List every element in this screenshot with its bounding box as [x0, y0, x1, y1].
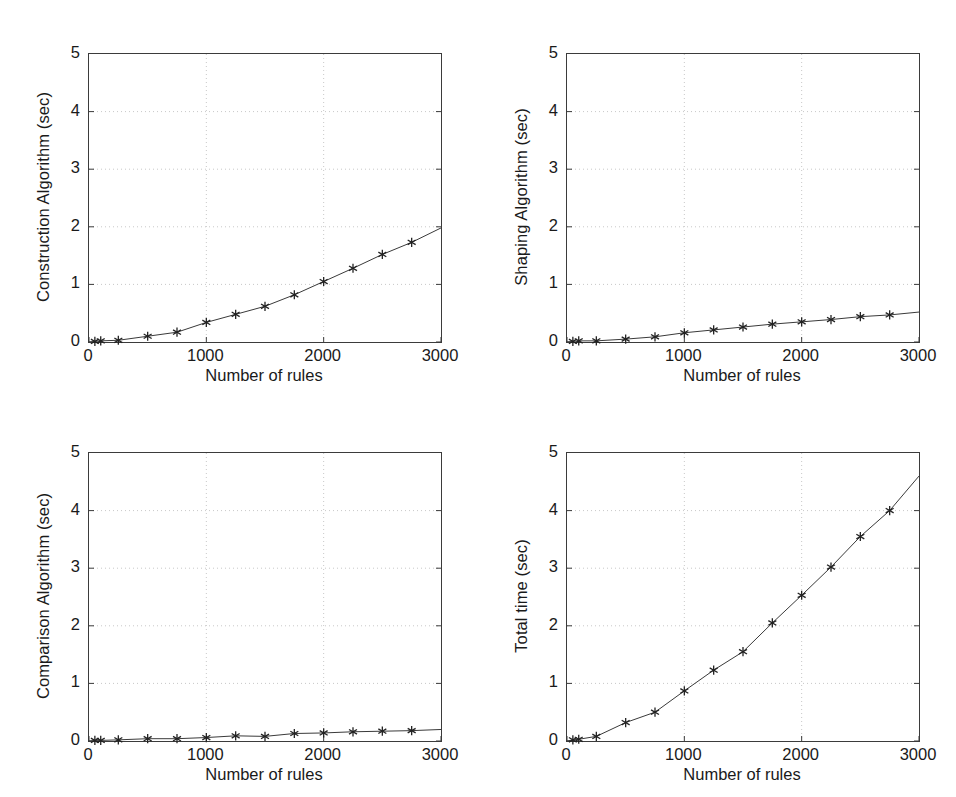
data-point-marker — [408, 238, 416, 247]
panel-comparison-algorithm: Comparison Algorithm (sec) 012345 010002… — [0, 399, 478, 797]
x-tick-label: 2000 — [304, 744, 341, 764]
panel-total-time: Total time (sec) 012345 0100020003000 Nu… — [478, 399, 956, 797]
y-axis-ticks: 012345 — [526, 0, 558, 398]
x-tick-label: 2000 — [304, 345, 341, 365]
x-tick-label: 0 — [83, 744, 92, 764]
y-tick-label: 2 — [528, 217, 558, 233]
plot-svg — [567, 453, 919, 741]
x-axis-ticks: 0100020003000 — [0, 744, 478, 766]
data-point-marker — [202, 318, 210, 327]
y-tick-label: 5 — [50, 44, 80, 60]
data-series-line — [89, 228, 441, 342]
y-tick-label: 4 — [528, 501, 558, 517]
y-tick-label: 1 — [50, 274, 80, 290]
y-tick-label: 5 — [528, 44, 558, 60]
x-axis-ticks: 0100020003000 — [0, 345, 478, 367]
data-point-marker — [232, 310, 240, 319]
data-point-marker — [378, 250, 386, 259]
y-tick-label: 3 — [50, 159, 80, 175]
y-tick-label: 4 — [50, 102, 80, 118]
y-tick-label: 4 — [50, 501, 80, 517]
x-tick-label: 1000 — [187, 345, 224, 365]
plot-area — [88, 452, 442, 742]
y-tick-label: 1 — [528, 274, 558, 290]
plot-area — [566, 53, 920, 343]
y-tick-label: 2 — [50, 616, 80, 632]
x-tick-label: 3000 — [900, 345, 937, 365]
y-tick-label: 2 — [528, 616, 558, 632]
panel-shaping-algorithm: Shaping Algorithm (sec) 012345 010002000… — [478, 0, 956, 398]
y-tick-label: 1 — [50, 673, 80, 689]
y-tick-label: 5 — [50, 443, 80, 459]
plot-svg — [567, 54, 919, 342]
y-tick-label: 3 — [528, 159, 558, 175]
data-point-marker — [680, 686, 688, 695]
x-tick-label: 1000 — [187, 744, 224, 764]
x-tick-label: 0 — [83, 345, 92, 365]
data-point-marker — [349, 264, 357, 273]
data-point-marker — [320, 277, 328, 286]
y-tick-label: 3 — [528, 558, 558, 574]
x-tick-label: 3000 — [422, 345, 459, 365]
x-axis-label: Number of rules — [88, 765, 440, 784]
data-point-marker — [651, 708, 659, 717]
data-point-marker — [622, 718, 630, 727]
data-point-marker — [710, 666, 718, 675]
x-tick-label: 3000 — [900, 744, 937, 764]
x-tick-label: 2000 — [782, 345, 819, 365]
y-tick-label: 5 — [528, 443, 558, 459]
x-axis-label: Number of rules — [566, 366, 918, 385]
x-tick-label: 0 — [561, 345, 570, 365]
plot-area — [566, 452, 920, 742]
data-point-marker — [261, 302, 269, 311]
x-axis-label: Number of rules — [566, 765, 918, 784]
x-axis-ticks: 0100020003000 — [478, 345, 956, 367]
y-tick-label: 4 — [528, 102, 558, 118]
y-tick-label: 3 — [50, 558, 80, 574]
plot-svg — [89, 453, 441, 741]
y-tick-label: 1 — [528, 673, 558, 689]
x-tick-label: 2000 — [782, 744, 819, 764]
y-axis-ticks: 012345 — [48, 0, 80, 398]
x-tick-label: 3000 — [422, 744, 459, 764]
plot-svg — [89, 54, 441, 342]
x-tick-label: 1000 — [665, 345, 702, 365]
plot-area — [88, 53, 442, 343]
x-tick-label: 1000 — [665, 744, 702, 764]
x-tick-label: 0 — [561, 744, 570, 764]
data-series-line — [567, 476, 919, 741]
panel-construction-algorithm: Construction Algorithm (sec) 012345 0100… — [0, 0, 478, 398]
y-axis-ticks: 012345 — [526, 399, 558, 797]
y-tick-label: 2 — [50, 217, 80, 233]
x-axis-label: Number of rules — [88, 366, 440, 385]
data-point-marker — [290, 290, 298, 299]
y-axis-ticks: 012345 — [48, 399, 80, 797]
figure-panel-grid: Construction Algorithm (sec) 012345 0100… — [0, 0, 956, 797]
x-axis-ticks: 0100020003000 — [478, 744, 956, 766]
